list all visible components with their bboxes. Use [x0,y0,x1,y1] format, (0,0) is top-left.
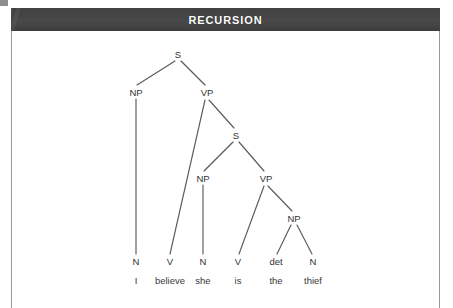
terminal-word-3: is [235,275,242,286]
terminal-word-0: I [135,275,138,286]
terminal-word-4: the [269,275,282,286]
node-np-1: NP [129,87,142,98]
terminal-word-1: believe [155,275,185,286]
edge-vp1-s2 [209,100,234,128]
edge-s-vp1 [181,61,205,85]
terminal-pos-2: N [200,256,207,267]
edge-vp2-v [239,186,264,254]
edge-s2-np2 [204,142,233,171]
edge-vp2-np3 [268,186,292,211]
terminal-pos-4: det [269,256,283,267]
terminal-pos-0: N [133,256,140,267]
node-np-3: NP [287,213,300,224]
node-vp-1: VP [201,87,214,98]
edge-s-np1 [137,61,175,85]
terminal-pos-3: V [235,256,242,267]
edge-np3-det [277,225,291,254]
node-s-2: S [233,130,239,141]
terminal-pos-5: N [310,256,317,267]
node-vp-2: VP [260,173,273,184]
edge-s2-vp2 [239,142,264,171]
edge-np3-n [297,225,312,254]
terminal-pos-1: V [167,256,174,267]
node-np-2: NP [196,173,209,184]
terminal-word-5: thief [304,275,322,286]
terminal-word-2: she [195,275,210,286]
node-root-s: S [175,49,181,60]
